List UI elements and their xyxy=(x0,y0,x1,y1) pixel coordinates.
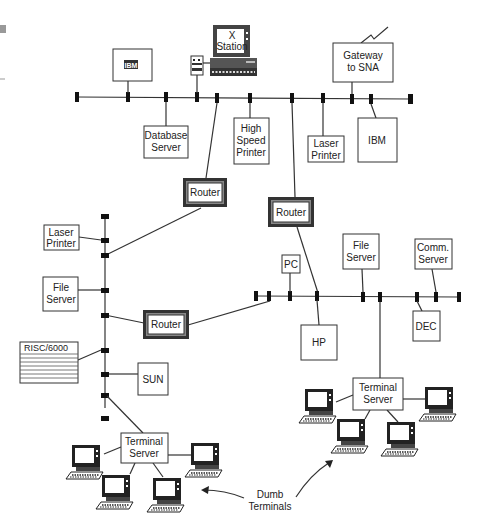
ibm-label: IBM xyxy=(368,135,386,146)
transceiver-icon xyxy=(191,56,203,75)
dumb-terminal-icon xyxy=(66,445,103,479)
risc6000-label: RISC/6000 xyxy=(24,343,68,353)
laser-printer-label: Laser xyxy=(313,138,339,149)
laser-printer-label: Printer xyxy=(311,150,341,161)
annotation-label: Dumb xyxy=(257,489,284,500)
annotation-label: Terminals xyxy=(249,501,292,512)
router-label: Router xyxy=(151,319,182,330)
node-ibm-top-right[interactable]: IBM xyxy=(358,104,397,162)
printer-label: Printer xyxy=(236,147,266,158)
terminal-server-label: Server xyxy=(129,448,159,459)
node-sun[interactable]: SUN xyxy=(109,363,168,395)
router-label: Router xyxy=(190,187,221,198)
router-3[interactable]: Router xyxy=(105,301,270,339)
dumb-terminals-annotation: Dumb Terminals xyxy=(201,460,333,512)
router-label: Router xyxy=(276,207,307,218)
terminal-server-label: Terminal xyxy=(359,382,397,393)
file-server-label: Server xyxy=(46,294,76,305)
arrow-left-icon xyxy=(203,490,244,498)
margin-mark xyxy=(0,25,6,33)
node-high-speed-printer[interactable]: High Speed Printer xyxy=(234,103,269,164)
node-x-station[interactable]: X Station xyxy=(191,25,257,93)
node-comm-server[interactable]: Comm. Server xyxy=(415,239,452,292)
network-diagram: IBM X Station Gateway xyxy=(0,0,481,530)
file-server-label: Server xyxy=(346,252,376,263)
arrow-right-icon xyxy=(296,462,330,497)
dumb-terminal-icon xyxy=(185,443,222,477)
gateway-label: to SNA xyxy=(347,62,379,73)
node-laser-printer-left[interactable]: Laser Printer xyxy=(44,225,101,250)
node-laser-printer-top[interactable]: Laser Printer xyxy=(308,103,344,162)
pc-label: PC xyxy=(284,259,298,270)
top-backbone xyxy=(75,92,413,104)
dumb-terminal-icon xyxy=(381,422,418,456)
left-segment xyxy=(101,214,109,421)
dumb-terminal-icon xyxy=(96,475,133,509)
node-gateway-sna[interactable]: Gateway to SNA xyxy=(333,27,393,94)
dec-label: DEC xyxy=(415,321,436,332)
node-file-server-left[interactable]: File Server xyxy=(43,277,101,311)
file-server-label: File xyxy=(53,282,70,293)
gateway-label: Gateway xyxy=(343,50,382,61)
x-station-label: Station xyxy=(216,41,247,52)
sun-label: SUN xyxy=(142,374,163,385)
laser-printer-label: Laser xyxy=(48,227,74,238)
node-terminal-server-left[interactable]: Terminal Server xyxy=(104,396,196,477)
file-server-label: File xyxy=(353,240,370,251)
database-server-label: Database xyxy=(145,130,188,141)
database-server-label: Server xyxy=(151,142,181,153)
node-pc[interactable]: PC xyxy=(282,255,300,292)
dumb-terminal-icon xyxy=(331,419,368,453)
node-dec[interactable]: DEC xyxy=(413,301,440,341)
x-station-label: X xyxy=(229,30,236,41)
hp-label: HP xyxy=(312,337,326,348)
ibm-logo-text: IBM xyxy=(125,62,138,69)
laser-printer-label: Printer xyxy=(46,238,76,249)
right-segment xyxy=(254,291,461,302)
node-database-server[interactable]: Database Server xyxy=(144,102,188,158)
node-risc6000[interactable]: RISC/6000 xyxy=(20,342,101,383)
node-file-server-right[interactable]: File Server xyxy=(343,234,379,292)
node-ibm-top-left[interactable]: IBM xyxy=(113,49,152,93)
node-hp[interactable]: HP xyxy=(301,300,337,360)
dumb-terminal-icon xyxy=(299,389,336,423)
comm-server-label: Server xyxy=(418,254,448,265)
dumb-terminal-icon xyxy=(419,387,456,421)
printer-label: Speed xyxy=(237,135,266,146)
lightning-link-icon xyxy=(361,27,388,43)
terminal-server-label: Server xyxy=(363,394,393,405)
dumb-terminal-icon xyxy=(147,478,184,512)
comm-server-label: Comm. xyxy=(417,242,449,253)
terminal-server-label: Terminal xyxy=(125,436,163,447)
printer-label: High xyxy=(241,123,262,134)
